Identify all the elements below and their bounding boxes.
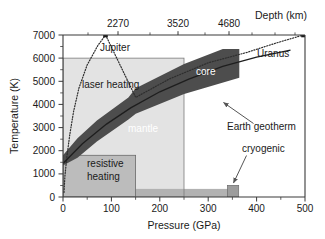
chart-svg: 0 1000 2000 3000 4000 5000 6000 7000 Tem… — [0, 0, 325, 239]
x-tick-label-100: 100 — [103, 203, 120, 214]
x-tick-label-500: 500 — [297, 203, 314, 214]
x-axis-title: Pressure (GPa) — [148, 219, 221, 231]
y-tick-label-6000: 6000 — [33, 53, 56, 64]
x-tick-label-200: 200 — [151, 203, 168, 214]
band-label-core: core — [196, 66, 216, 77]
depth-tick-label-2270: 2270 — [107, 18, 130, 29]
band-label-mantle: mantle — [128, 123, 158, 134]
y-tick-label-2000: 2000 — [33, 145, 56, 156]
x-tick-label-300: 300 — [200, 203, 217, 214]
y-axis-title: Temperature (K) — [8, 78, 20, 154]
curve-label-jupiter: Jupiter — [100, 42, 131, 53]
figure-container: 0 1000 2000 3000 4000 5000 6000 7000 Tem… — [0, 0, 325, 239]
y-tick-label-5000: 5000 — [33, 76, 56, 87]
region-cryogenic-box — [228, 185, 239, 197]
y-tick-label-1000: 1000 — [33, 168, 56, 179]
curve-label-uranus: Uranus — [257, 48, 289, 59]
depth-axis-title: Depth (km) — [255, 9, 307, 21]
region-label-resistive-heating-line2: heating — [87, 171, 120, 182]
x-tick-label-0: 0 — [60, 203, 66, 214]
y-tick-label-7000: 7000 — [33, 30, 56, 41]
annotation-earth-geotherm: Earth geotherm — [227, 121, 296, 132]
region-label-resistive-heating-line1: resistive — [87, 158, 124, 169]
annotation-cryogenic: cryogenic — [242, 143, 285, 154]
y-tick-label-3000: 3000 — [33, 122, 56, 133]
y-tick-label-0: 0 — [49, 192, 55, 203]
depth-tick-label-3520: 3520 — [167, 18, 190, 29]
region-label-laser-heating: laser heating — [82, 79, 139, 90]
y-tick-label-4000: 4000 — [33, 99, 56, 110]
x-tick-label-400: 400 — [248, 203, 265, 214]
depth-tick-label-4680: 4680 — [218, 18, 241, 29]
